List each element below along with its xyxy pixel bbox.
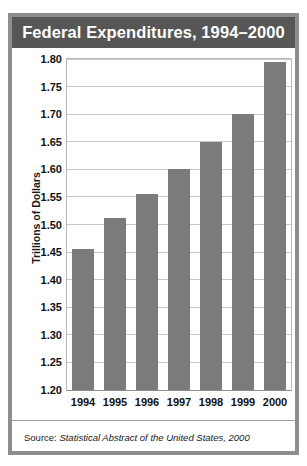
bar-1996 — [136, 194, 158, 390]
x-tick-label: 1995 — [103, 396, 127, 408]
x-tick-label: 1996 — [135, 396, 159, 408]
y-tick-label: 1.55 — [18, 191, 62, 203]
source-work-title: Statistical Abstract of the United State… — [59, 432, 249, 443]
gridline — [67, 141, 291, 142]
bar-1997 — [168, 169, 190, 390]
gridline — [67, 114, 291, 115]
y-axis-tick-labels: 1.801.751.701.651.601.551.501.451.401.35… — [12, 58, 62, 391]
gridline — [67, 86, 291, 87]
x-axis-tick-labels: 1994199519961997199819992000 — [66, 396, 292, 414]
y-tick-label: 1.40 — [18, 274, 62, 286]
plot-area — [66, 58, 292, 391]
y-tick-label: 1.80 — [18, 53, 62, 65]
page-title: Federal Expenditures, 1994–2000 — [12, 17, 295, 48]
x-tick-label: 1994 — [71, 396, 95, 408]
chart-title-bar: Federal Expenditures, 1994–2000 — [12, 17, 295, 48]
plot-inner — [67, 59, 291, 390]
source-note: Source: Statistical Abstract of the Unit… — [24, 432, 250, 443]
bar-1998 — [200, 142, 222, 390]
y-tick-label: 1.70 — [18, 108, 62, 120]
x-tick-label: 1999 — [231, 396, 255, 408]
bar-2000 — [264, 62, 286, 390]
chart-figure: Federal Expenditures, 1994–2000 Trillion… — [8, 13, 299, 455]
y-tick-label: 1.20 — [18, 384, 62, 396]
y-tick-label: 1.25 — [18, 356, 62, 368]
source-area: Source: Statistical Abstract of the Unit… — [12, 421, 295, 451]
x-tick-label: 2000 — [263, 396, 287, 408]
y-tick-label: 1.45 — [18, 246, 62, 258]
bar-1995 — [104, 218, 126, 390]
bar-1999 — [232, 114, 254, 390]
chart-plot-region: Trillions of Dollars 1.801.751.701.651.6… — [12, 48, 295, 420]
y-tick-label: 1.75 — [18, 81, 62, 93]
x-tick-label: 1998 — [199, 396, 223, 408]
source-label: Source: — [24, 432, 57, 443]
x-tick-label: 1997 — [167, 396, 191, 408]
y-tick-label: 1.35 — [18, 301, 62, 313]
y-tick-label: 1.30 — [18, 329, 62, 341]
y-tick-label: 1.65 — [18, 136, 62, 148]
y-tick-label: 1.50 — [18, 219, 62, 231]
gridline — [67, 59, 291, 60]
y-tick-label: 1.60 — [18, 163, 62, 175]
bar-1994 — [72, 249, 94, 390]
